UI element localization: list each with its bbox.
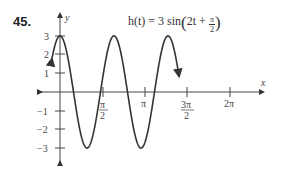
- y-tick-3: 3: [44, 31, 49, 42]
- x-axis-label: x: [260, 77, 266, 88]
- y-axis-label: y: [64, 12, 70, 23]
- x-tick-pi: π: [141, 98, 146, 109]
- x-tick-pi-half-den: 2: [100, 110, 105, 121]
- y-tick-1: 1: [44, 68, 49, 79]
- x-tick-3pi-half-num: 3π: [181, 99, 191, 110]
- y-tick-2: 2: [44, 49, 49, 60]
- sine-graph: y x 3 2 1 −1 −2 −3 π 2 π 3π 2 2π: [0, 0, 284, 178]
- x-tick-2pi: 2π: [224, 98, 234, 109]
- y-tick-neg3: −3: [37, 143, 48, 154]
- y-tick-neg1: −1: [37, 106, 48, 117]
- y-tick-neg2: −2: [37, 124, 48, 135]
- x-tick-pi-half-num: π: [100, 99, 105, 110]
- x-tick-3pi-half-den: 2: [184, 110, 189, 121]
